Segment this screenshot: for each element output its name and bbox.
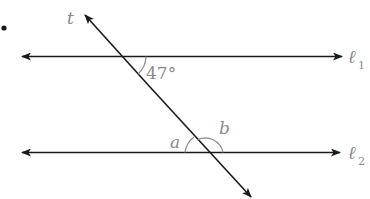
svg-text:ℓ: ℓ [348, 46, 356, 67]
label-angle-a: a [170, 132, 180, 152]
diagram-canvas: t 47° a b ℓ 1 ℓ 2 [0, 0, 370, 199]
label-l2: ℓ 2 [348, 142, 365, 168]
transversal-t [85, 15, 251, 197]
label-angle-47: 47° [146, 63, 176, 83]
bullet-dot [1, 25, 6, 30]
angle-arc-a [185, 137, 194, 153]
label-angle-b: b [219, 118, 230, 138]
angle-arc-b [197, 138, 223, 153]
svg-text:ℓ: ℓ [348, 142, 356, 163]
svg-text:2: 2 [358, 155, 365, 168]
label-t: t [67, 8, 74, 28]
label-l1: ℓ 1 [348, 46, 365, 72]
svg-text:1: 1 [358, 59, 365, 72]
angle-arc-47 [138, 57, 146, 75]
